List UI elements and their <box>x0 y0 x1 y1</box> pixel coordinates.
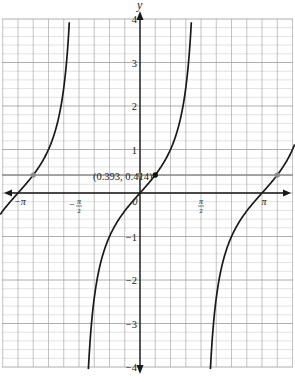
y-tick-label: 2 <box>132 101 137 112</box>
y-tick-label: −1 <box>126 232 137 243</box>
y-tick-label: −4 <box>126 362 138 373</box>
origin-label: 0 <box>133 196 138 207</box>
grey-point <box>31 172 36 177</box>
tan-curves <box>0 22 295 369</box>
x-tick-label: −π2 <box>69 197 82 215</box>
y-tick-label: −2 <box>126 275 137 286</box>
svg-text:2: 2 <box>199 207 203 215</box>
grey-point <box>275 172 280 177</box>
svg-text:−: − <box>69 199 75 210</box>
y-tick-label: 3 <box>132 58 137 69</box>
svg-text:2: 2 <box>77 207 81 215</box>
tangent-graph: 4321−1−2−3−4−π−π20π2π y (0.393, 0.414) <box>0 0 295 382</box>
point-annotation: (0.393, 0.414) <box>93 171 153 183</box>
axes <box>4 11 291 374</box>
highlighted-point <box>153 172 158 177</box>
x-tick-label: π2 <box>198 197 204 215</box>
y-tick-label: 4 <box>132 14 138 25</box>
y-tick-label: 1 <box>132 145 137 156</box>
x-tick-label: −π <box>14 196 27 207</box>
y-tick-label: −3 <box>126 319 137 330</box>
y-axis-label: y <box>136 0 143 12</box>
